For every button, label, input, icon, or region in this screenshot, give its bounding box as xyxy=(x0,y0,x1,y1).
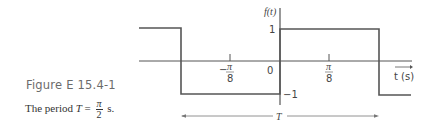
period-arrow-right-icon xyxy=(374,114,379,117)
y-tick-minus-1: −1 xyxy=(283,89,298,100)
square-wave-plot: f(t) 1 0 −1 − π 8 π 8 t (s) T xyxy=(0,0,434,130)
period-arrow-left-icon xyxy=(181,114,186,117)
tick-pos-den: 8 xyxy=(326,73,332,84)
x-axis-label: t (s) xyxy=(394,71,414,82)
tick-neg-den: 8 xyxy=(227,73,233,84)
tick-pos-num: π xyxy=(326,61,332,72)
period-label: T xyxy=(276,111,283,122)
tick-neg-num: π xyxy=(227,61,233,72)
y-tick-1: 1 xyxy=(269,24,275,35)
t-arrow-head-icon xyxy=(410,65,413,69)
origin-label: 0 xyxy=(267,65,273,76)
y-axis-label: f(t) xyxy=(264,6,277,18)
